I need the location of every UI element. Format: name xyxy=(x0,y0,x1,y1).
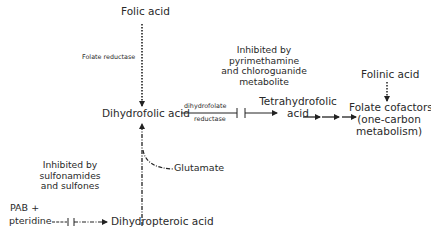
dhfr-label-line2: reductase xyxy=(194,116,226,123)
pab-label-line1: PAB + xyxy=(10,203,39,214)
annotation-line: Inhibited by xyxy=(30,160,110,171)
label-line: (one-carbon xyxy=(349,113,429,125)
dihydrofolic-acid-label: Dihydrofolic acid xyxy=(102,107,190,119)
folate-cofactors-label: Folate cofactors (one-carbon metabolism) xyxy=(349,101,429,137)
sulfonamides-annotation: Inhibited by sulfonamides and sulfones xyxy=(30,160,110,192)
folate-reductase-label: Folate reductase xyxy=(82,54,135,61)
label-line: Tetrahydrofolic xyxy=(258,95,338,107)
folic-acid-label: Folic acid xyxy=(121,5,170,17)
label-line: acid xyxy=(258,107,338,119)
pab-label-line2: pteridine xyxy=(9,216,52,227)
dihydropteroic-acid-label: Dihydropteroic acid xyxy=(111,215,214,227)
annotation-line: Inhibited by xyxy=(214,45,314,56)
glutamate-curve xyxy=(143,150,173,169)
label-line: metabolism) xyxy=(349,125,429,137)
dhfr-label-line1: dihydrofolate xyxy=(184,103,226,110)
annotation-line: and sulfones xyxy=(30,181,110,192)
glutamate-label: Glutamate xyxy=(174,163,224,174)
pyrimethamine-annotation: Inhibited by pyrimethamine and chlorogua… xyxy=(214,45,314,87)
tetrahydrofolic-acid-label: Tetrahydrofolic acid xyxy=(258,95,338,119)
annotation-line: metabolite xyxy=(214,77,314,88)
folinic-acid-label: Folinic acid xyxy=(361,68,419,80)
label-line: Folate cofactors xyxy=(349,101,429,113)
